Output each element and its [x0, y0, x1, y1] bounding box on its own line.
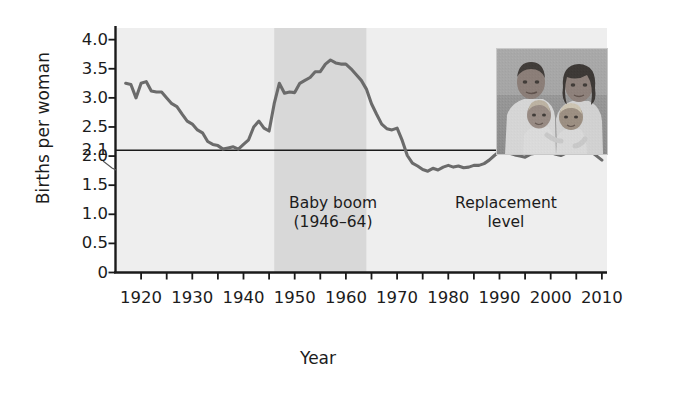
y-tick-label: 1.0 — [82, 204, 108, 223]
baby-boom-annotation-line2: (1946–64) — [255, 213, 411, 232]
x-tick-label: 2010 — [572, 288, 632, 307]
family-photo-image — [497, 49, 607, 154]
y-tick-label: 3.5 — [82, 59, 108, 78]
family-photo — [496, 48, 608, 155]
y-tick-label: 2.5 — [82, 117, 108, 136]
fertility-rate-figure: Births per woman Year 4.03.53.02.52.12.0… — [0, 0, 686, 395]
replacement-level-annotation-line1: Replacement — [430, 194, 582, 213]
y-axis-title: Births per woman — [33, 13, 53, 243]
replacement-level-annotation: Replacement level — [430, 194, 582, 232]
replacement-level-annotation-line2: level — [430, 213, 582, 232]
baby-boom-annotation-line1: Baby boom — [255, 194, 411, 213]
y-tick-label: 0.5 — [82, 233, 108, 252]
y-tick-label: 0 — [98, 263, 109, 282]
y-tick-label: 1.5 — [82, 175, 108, 194]
x-axis-title: Year — [300, 348, 336, 368]
baby-boom-annotation: Baby boom (1946–64) — [255, 194, 411, 232]
y-tick-label: 4.0 — [82, 30, 108, 49]
y-tick-label: 2.0 — [82, 146, 108, 165]
y-tick-label: 3.0 — [82, 88, 108, 107]
